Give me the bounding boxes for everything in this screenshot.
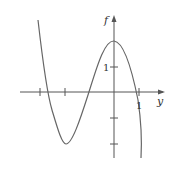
function-curve xyxy=(38,20,141,158)
x-axis-label: y xyxy=(156,95,164,108)
y-tick-label-1: 1 xyxy=(103,62,109,73)
x-axis-arrow-icon xyxy=(158,90,165,95)
function-graph: f y 1 1 xyxy=(0,0,171,169)
y-axis-label: f xyxy=(103,14,110,27)
y-axis-arrow-icon xyxy=(112,15,117,22)
x-tick-label-1: 1 xyxy=(136,100,142,111)
